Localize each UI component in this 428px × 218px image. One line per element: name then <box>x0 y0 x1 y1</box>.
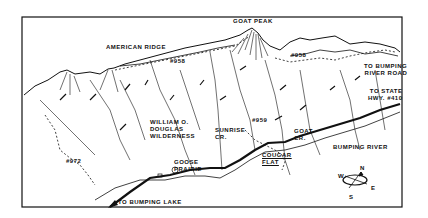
label-trail-958-left: #958 <box>170 58 185 65</box>
label-bumping-river: BUMPING RIVER <box>333 144 388 151</box>
compass-n: N <box>360 165 365 172</box>
label-goat-cr: GOAT CR. <box>294 128 313 142</box>
compass-rose-icon <box>343 172 367 188</box>
relief-map <box>0 0 428 218</box>
drainages <box>40 50 385 175</box>
label-wilderness: WILLIAM O. DOUGLAS WILDERNESS <box>150 119 195 140</box>
trail-972 <box>45 115 95 185</box>
label-trail-972: #972 <box>66 158 81 165</box>
label-to-bumping-river-road: TO BUMPING RIVER ROAD <box>364 63 407 77</box>
label-goat-peak: GOAT PEAK <box>233 18 273 25</box>
label-to-bumping-lake: TO BUMPING LAKE <box>118 199 182 206</box>
map-border <box>22 17 402 207</box>
peak-hatching <box>60 30 268 95</box>
trail-958 <box>115 36 395 70</box>
label-trail-958-right: #958 <box>291 52 306 59</box>
label-cougar-flat: COUGAR FLAT <box>262 152 292 166</box>
compass-e: E <box>371 185 376 192</box>
compass-w: W <box>338 173 344 180</box>
label-trail-959: #959 <box>252 117 267 124</box>
relief-strokes <box>60 66 360 130</box>
label-to-state-hwy: TO STATE HWY. #410 <box>368 88 403 102</box>
compass-s: S <box>349 194 354 201</box>
label-sunrise-cr: SUNRISE CR. <box>215 127 245 141</box>
label-american-ridge: AMERICAN RIDGE <box>106 44 166 51</box>
label-goose-prairie: GOOSE PRAIRIE <box>174 159 202 173</box>
